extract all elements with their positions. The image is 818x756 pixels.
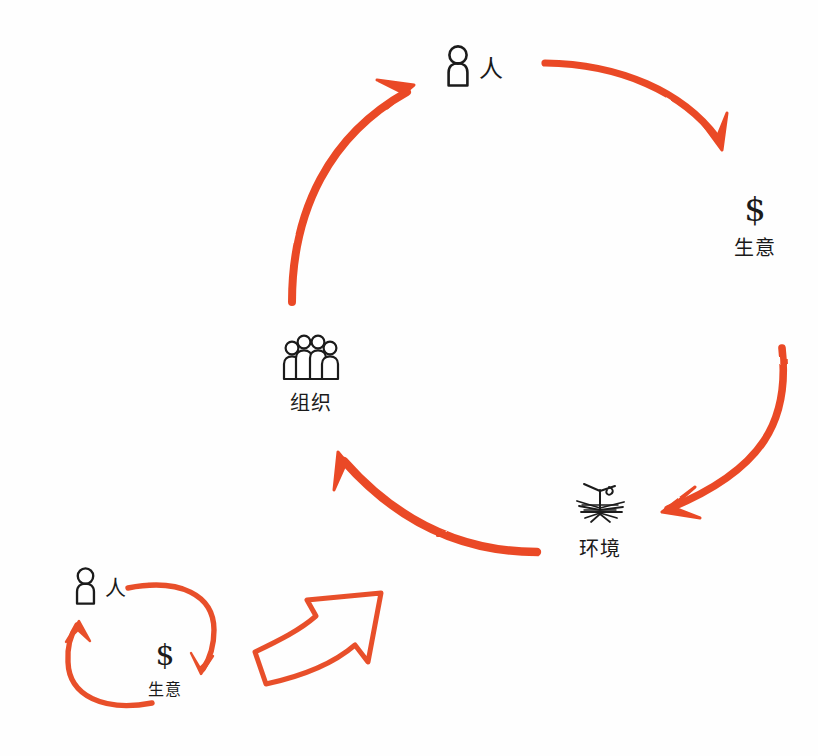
node-person-sub[interactable]: 人 [72, 566, 127, 606]
people-group-icon [278, 333, 344, 381]
node-business-right[interactable]: $ 生意 [700, 192, 810, 261]
node-organization-label: 组织 [290, 387, 332, 416]
arrow-business-to-environment [662, 348, 783, 518]
tree-icon [568, 479, 632, 527]
person-icon [72, 566, 99, 606]
node-person-sub-label: 人 [105, 571, 127, 601]
arrow-environment-to-organization [334, 452, 537, 552]
node-environment[interactable]: 环境 [545, 479, 655, 562]
node-person-top-label: 人 [479, 49, 504, 84]
node-business-right-label: 生意 [734, 232, 776, 261]
node-business-sub[interactable]: $ 生意 [115, 640, 215, 700]
node-environment-label: 环境 [579, 533, 621, 562]
arrow-organization-to-person [292, 80, 414, 302]
dollar-icon: $ [744, 192, 766, 226]
arrow-subcycle-to-main [255, 593, 381, 684]
person-icon [443, 44, 473, 88]
dollar-icon: $ [155, 640, 174, 670]
diagram-canvas: 人 $ 生意 [0, 0, 818, 756]
node-organization[interactable]: 组织 [256, 333, 366, 416]
node-person-top[interactable]: 人 [443, 44, 504, 88]
arrow-person-to-business [545, 63, 727, 150]
node-business-sub-label: 生意 [148, 676, 181, 700]
